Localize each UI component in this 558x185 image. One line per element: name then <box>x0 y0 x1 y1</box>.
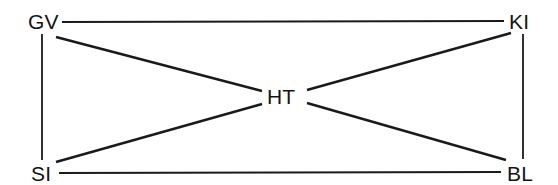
nodes-group: GVKIHTSIBL <box>28 10 533 185</box>
edge-gv-ki <box>62 21 504 22</box>
edge-gv-ht <box>56 37 262 91</box>
edge-ht-bl <box>307 103 506 160</box>
diagram-canvas: GVKIHTSIBL <box>0 0 558 185</box>
node-label-bl: BL <box>507 162 533 185</box>
node-label-ki: KI <box>509 10 529 33</box>
edge-si-ht <box>56 104 262 162</box>
edge-si-bl <box>59 172 501 173</box>
node-label-si: SI <box>31 162 51 185</box>
network-diagram: GVKIHTSIBL <box>0 0 558 185</box>
edge-ht-ki <box>307 33 511 90</box>
node-label-gv: GV <box>28 10 59 33</box>
node-label-ht: HT <box>267 85 295 108</box>
